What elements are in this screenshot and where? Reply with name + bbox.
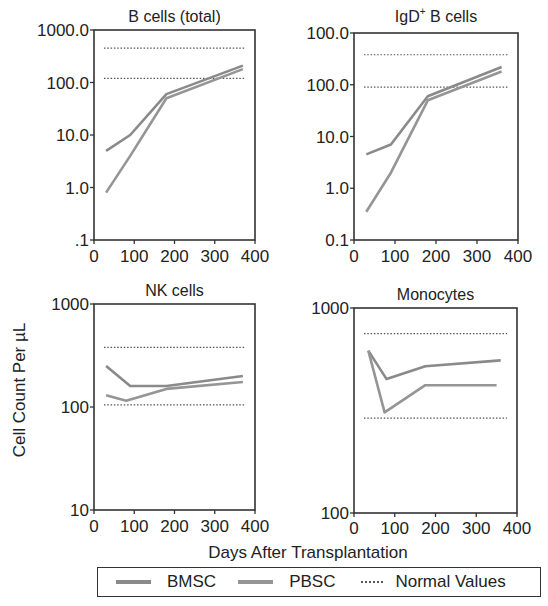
panel-1: B cells (total).11.010.0100.01000.001002… [37, 8, 269, 266]
legend-item-pbsc: PBSC [238, 572, 335, 592]
x-axis-label: Days After Transplantation [208, 543, 407, 562]
y-tick-label: 1000.0 [37, 21, 89, 40]
plot-frame [94, 304, 255, 510]
y-tick-label: 100.0 [306, 24, 349, 43]
legend: BMSC PBSC Normal Values [97, 567, 541, 597]
legend-label-bmsc: BMSC [167, 572, 216, 592]
plot-frame [354, 308, 517, 513]
panel-title: NK cells [145, 282, 204, 299]
normal-values-dotted-swatch-icon [361, 581, 383, 583]
panel-title: B cells (total) [128, 8, 220, 25]
x-tick-label: 300 [462, 519, 490, 538]
legend-label-normal: Normal Values [395, 572, 505, 592]
series-pbsc [368, 351, 496, 413]
x-tick-label: 400 [504, 247, 532, 266]
legend-item-normal: Normal Values [361, 572, 505, 592]
x-tick-label: 100 [120, 517, 148, 536]
x-tick-label: 200 [160, 247, 188, 266]
panel-3: NK cells1010010000100200300400 [51, 282, 269, 536]
y-tick-label: 0.1 [325, 231, 349, 250]
x-tick-label: 100 [381, 247, 409, 266]
panel-2: IgD+ B cells0.11.010.0100.0100.001002003… [306, 6, 532, 266]
x-tick-label: 100 [381, 519, 409, 538]
y-tick-label: 1000 [311, 299, 349, 318]
y-tick-label: 10.0 [316, 128, 349, 147]
y-tick-label: 100 [61, 398, 89, 417]
x-tick-label: 400 [241, 247, 269, 266]
y-tick-label: 100.0 [46, 74, 89, 93]
y-tick-label: 100.0 [306, 76, 349, 95]
x-tick-label: 200 [160, 517, 188, 536]
x-tick-label: 200 [422, 247, 450, 266]
x-tick-label: 0 [89, 247, 98, 266]
x-tick-label: 400 [241, 517, 269, 536]
x-tick-label: 0 [349, 519, 358, 538]
y-tick-label: 1.0 [325, 179, 349, 198]
x-tick-label: 300 [201, 517, 229, 536]
panel-title: Monocytes [397, 286, 474, 303]
x-tick-label: 400 [503, 519, 531, 538]
legend-item-bmsc: BMSC [116, 572, 216, 592]
y-tick-label: .1 [75, 231, 89, 250]
y-axis-label: Cell Count Per µL [10, 323, 29, 458]
y-tick-label: 100 [321, 504, 349, 523]
pbsc-line-swatch-icon [238, 580, 273, 584]
panel-title: IgD+ B cells [395, 6, 477, 25]
plot-frame [354, 33, 518, 240]
figure-canvas: B cells (total).11.010.0100.01000.001002… [0, 0, 548, 606]
y-tick-label: 1.0 [65, 179, 89, 198]
bmsc-line-swatch-icon [116, 580, 151, 584]
series-pbsc [106, 69, 243, 193]
legend-label-pbsc: PBSC [289, 572, 335, 592]
x-tick-label: 0 [349, 247, 358, 266]
y-tick-label: 1000 [51, 295, 89, 314]
panel-4: Monocytes10010000100200300400 [311, 286, 531, 538]
x-tick-label: 300 [463, 247, 491, 266]
series-bmsc [368, 351, 500, 380]
x-tick-label: 300 [201, 247, 229, 266]
plot-frame [94, 30, 255, 240]
x-tick-label: 200 [421, 519, 449, 538]
y-tick-label: 10.0 [56, 126, 89, 145]
y-tick-label: 10 [70, 501, 89, 520]
x-tick-label: 0 [89, 517, 98, 536]
x-tick-label: 100 [120, 247, 148, 266]
